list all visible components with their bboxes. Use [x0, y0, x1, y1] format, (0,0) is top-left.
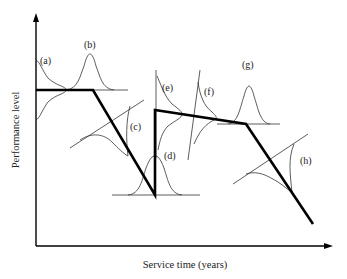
- label-g: (g): [242, 59, 254, 71]
- y-axis-arrow-icon: [33, 13, 39, 22]
- x-axis-arrow-icon: [324, 243, 333, 249]
- label-b: (b): [84, 39, 96, 51]
- distribution-a: (a): [36, 55, 66, 120]
- distribution-g: (g): [217, 59, 280, 124]
- label-f: (f): [204, 86, 214, 98]
- diagram-canvas: Performance level Service time (years) (…: [0, 0, 347, 279]
- label-a: (a): [40, 55, 51, 67]
- performance-diagram: Performance level Service time (years) (…: [0, 0, 347, 279]
- distribution-b: (b): [60, 39, 128, 90]
- label-d: (d): [164, 150, 176, 162]
- axes: [33, 13, 333, 249]
- distribution-c: (c): [70, 100, 144, 156]
- label-e: (e): [162, 82, 173, 94]
- label-c: (c): [130, 121, 141, 133]
- y-axis-label: Performance level: [10, 92, 21, 169]
- x-axis-label: Service time (years): [143, 259, 228, 271]
- label-h: (h): [300, 155, 312, 167]
